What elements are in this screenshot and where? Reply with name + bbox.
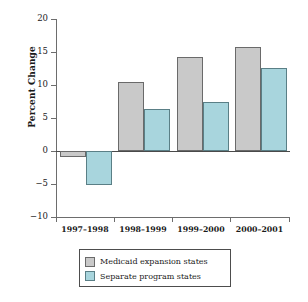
bar-separate-1998-1999 — [144, 109, 170, 151]
legend-label-separate: Separate program states — [100, 272, 201, 281]
y-tick-label-5: 5 — [24, 112, 48, 122]
bar-separate-1999-2000 — [203, 102, 229, 152]
chart-figure: Percent Change 20 15 10 5 0 −5 −10 — [0, 0, 308, 302]
gray-swatch-icon — [85, 257, 95, 267]
x-tick-4 — [289, 217, 290, 222]
y-tick-label-neg10: −10 — [24, 211, 48, 221]
bar-medicaid-2000-2001 — [235, 47, 261, 151]
y-tick-neg5: −5 — [51, 184, 56, 185]
x-axis-line — [56, 217, 290, 218]
y-axis-line — [56, 19, 57, 217]
y-tick-20: 20 — [51, 19, 56, 20]
legend-entry-separate: Separate program states — [85, 269, 225, 283]
x-tick-0 — [56, 217, 57, 222]
y-tick-0: 0 — [51, 151, 56, 152]
teal-swatch-icon — [85, 271, 95, 281]
x-axis-label-2000-2001: 2000–2001 — [230, 225, 289, 234]
y-tick-label-0: 0 — [24, 145, 48, 155]
x-axis-label-1997-1998: 1997–1998 — [56, 225, 114, 234]
bar-separate-2000-2001 — [261, 68, 287, 151]
x-tick-3 — [230, 217, 231, 222]
legend-label-medicaid: Medicaid expansion states — [100, 257, 208, 266]
legend-entry-medicaid: Medicaid expansion states — [85, 255, 225, 269]
chart-legend: Medicaid expansion states Separate progr… — [79, 249, 231, 287]
y-tick-label-neg5: −5 — [24, 178, 48, 188]
bar-medicaid-1997-1998 — [60, 151, 86, 157]
y-tick-label-15: 15 — [24, 46, 48, 56]
x-axis-label-1999-2000: 1999–2000 — [172, 225, 230, 234]
bar-medicaid-1998-1999 — [118, 82, 144, 151]
plot-area: 20 15 10 5 0 −5 −10 — [56, 19, 290, 217]
x-tick-1 — [114, 217, 115, 222]
y-tick-15: 15 — [51, 52, 56, 53]
bar-medicaid-1999-2000 — [177, 57, 203, 151]
y-tick-label-20: 20 — [24, 13, 48, 23]
bar-separate-1997-1998 — [86, 151, 112, 185]
x-axis-label-1998-1999: 1998–1999 — [114, 225, 172, 234]
y-tick-label-10: 10 — [24, 79, 48, 89]
y-tick-5: 5 — [51, 118, 56, 119]
x-tick-2 — [172, 217, 173, 222]
y-tick-10: 10 — [51, 85, 56, 86]
